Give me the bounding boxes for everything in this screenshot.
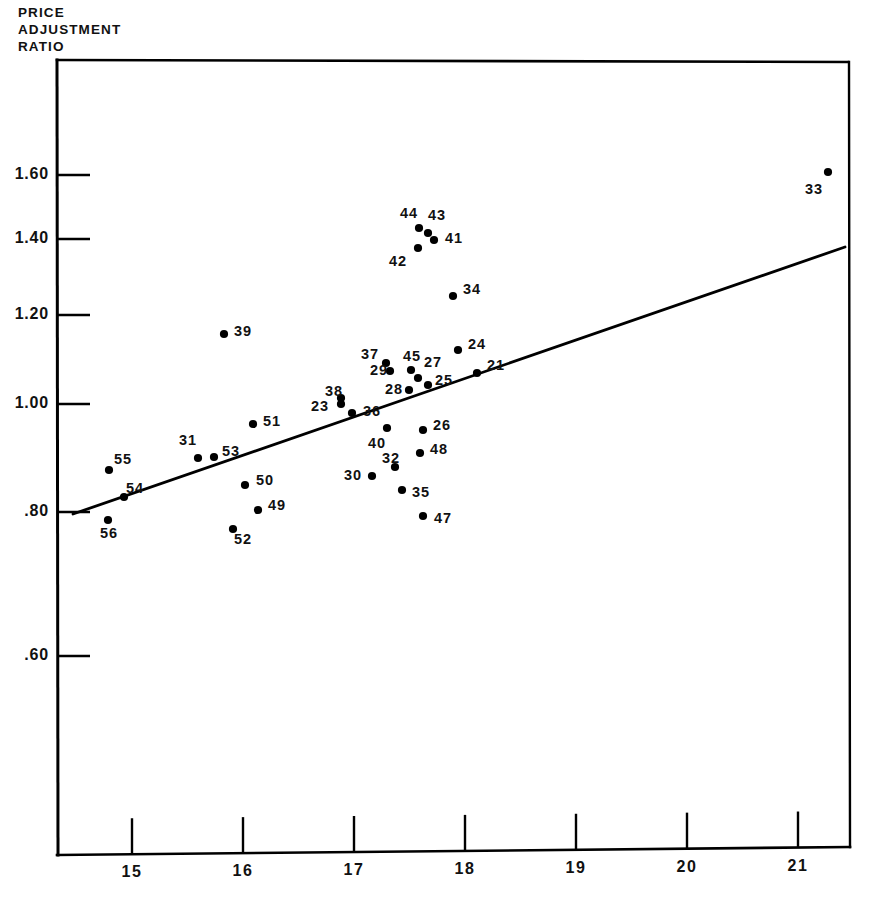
data-point-marker xyxy=(241,481,249,489)
data-point-label-31: 31 xyxy=(179,432,197,448)
data-point-label-56: 56 xyxy=(100,525,118,541)
data-point-marker xyxy=(424,381,432,389)
data-point-label-30: 30 xyxy=(344,467,362,483)
axis-spine-top xyxy=(57,60,848,62)
data-point-label-52: 52 xyxy=(234,531,252,547)
y-tick-label-1p20: 1.20 xyxy=(0,305,49,323)
data-point-label-40: 40 xyxy=(368,435,386,451)
data-point-marker xyxy=(449,292,457,300)
data-point-label-50: 50 xyxy=(256,472,274,488)
x-tick-label-15: 15 xyxy=(112,863,152,881)
axis-frame xyxy=(57,60,850,855)
data-point-label-23: 23 xyxy=(311,398,329,414)
data-point-marker xyxy=(368,472,376,480)
data-point-label-33: 33 xyxy=(805,181,823,197)
data-point-marker xyxy=(416,449,424,457)
data-point-marker xyxy=(405,386,413,394)
data-point-label-21: 21 xyxy=(487,357,505,373)
data-point-label-34: 34 xyxy=(463,281,481,297)
data-point-marker xyxy=(254,506,262,514)
x-tick-label-19: 19 xyxy=(556,859,596,877)
data-point-marker xyxy=(249,420,257,428)
y-axis-ticks xyxy=(57,175,90,656)
data-point-label-28: 28 xyxy=(385,381,403,397)
data-point-marker xyxy=(414,244,422,252)
x-tick-label-18: 18 xyxy=(445,860,485,878)
data-point-marker xyxy=(430,236,438,244)
regression-line xyxy=(73,247,845,514)
data-point-marker xyxy=(104,516,112,524)
data-point-marker xyxy=(424,229,432,237)
axis-spine-right xyxy=(849,62,850,847)
data-point-label-36: 36 xyxy=(363,403,381,419)
data-point-marker xyxy=(210,453,218,461)
x-tick-label-16: 16 xyxy=(223,862,263,880)
data-point-label-41: 41 xyxy=(445,230,463,246)
data-point-label-37: 37 xyxy=(361,346,379,362)
regression-line-path xyxy=(73,247,845,514)
axis-spine-left xyxy=(57,60,58,855)
data-point-marker xyxy=(383,424,391,432)
y-tick-label-1p00: 1.00 xyxy=(0,394,49,412)
data-point-label-38: 38 xyxy=(325,383,343,399)
data-point-label-26: 26 xyxy=(433,417,451,433)
y-tick-label-p60: .60 xyxy=(0,646,49,664)
data-point-marker xyxy=(220,330,228,338)
data-point-label-47: 47 xyxy=(434,510,452,526)
data-point-label-35: 35 xyxy=(412,484,430,500)
data-point-label-27: 27 xyxy=(424,354,442,370)
data-point-label-24: 24 xyxy=(468,336,486,352)
data-point-label-48: 48 xyxy=(430,441,448,457)
data-point-marker xyxy=(348,409,356,417)
data-point-label-25: 25 xyxy=(435,372,453,388)
x-tick-label-17: 17 xyxy=(334,861,374,879)
y-tick-label-1p60: 1.60 xyxy=(0,165,49,183)
data-point-label-42: 42 xyxy=(389,253,407,269)
data-point-label-44: 44 xyxy=(400,205,418,221)
data-point-marker xyxy=(824,168,832,176)
data-point-marker xyxy=(407,366,415,374)
data-point-marker xyxy=(454,346,462,354)
data-point-label-43: 43 xyxy=(428,207,446,223)
data-point-marker xyxy=(419,512,427,520)
data-point-label-29: 29 xyxy=(370,362,388,378)
data-point-marker xyxy=(194,454,202,462)
data-point-marker xyxy=(415,224,423,232)
data-point-label-49: 49 xyxy=(268,497,286,513)
data-point-label-45: 45 xyxy=(403,348,421,364)
data-point-label-53: 53 xyxy=(222,443,240,459)
data-point-marker xyxy=(105,466,113,474)
y-tick-label-p80: .80 xyxy=(0,502,49,520)
data-point-label-32: 32 xyxy=(382,450,400,466)
data-point-marker xyxy=(419,426,427,434)
data-point-label-55: 55 xyxy=(114,451,132,467)
axis-spine-bottom xyxy=(57,847,850,855)
data-point-marker xyxy=(414,374,422,382)
data-point-label-51: 51 xyxy=(263,413,281,429)
data-point-marker xyxy=(473,369,481,377)
data-point-label-39: 39 xyxy=(234,323,252,339)
scatter-plot-figure: PRICE ADJUSTMENT RATIO 1.601.401.201.00.… xyxy=(0,0,872,911)
y-tick-label-1p40: 1.40 xyxy=(0,229,49,247)
data-point-marker xyxy=(398,486,406,494)
x-tick-label-20: 20 xyxy=(667,858,707,876)
x-tick-label-21: 21 xyxy=(778,857,818,875)
data-point-label-54: 54 xyxy=(126,480,144,496)
